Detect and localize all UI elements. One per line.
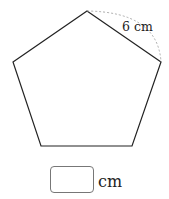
answer-input-box[interactable] bbox=[50, 166, 94, 193]
side-length-label: 6 cm bbox=[122, 19, 153, 34]
answer-unit: cm bbox=[98, 172, 122, 191]
